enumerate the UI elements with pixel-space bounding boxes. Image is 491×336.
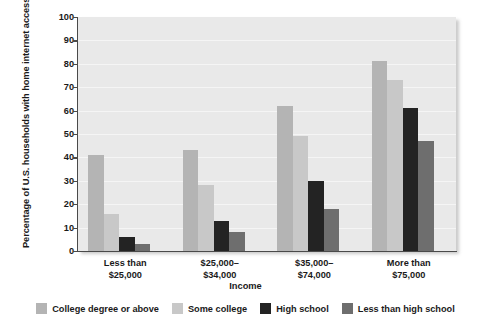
y-tick-label: 20 <box>44 199 74 209</box>
y-tick-label: 80 <box>44 59 74 69</box>
x-tick-label: More than$75,000 <box>359 258 459 281</box>
bar-group <box>277 17 339 251</box>
bar <box>387 80 403 251</box>
y-tick-label: 0 <box>44 246 74 256</box>
y-tick-mark <box>73 87 77 88</box>
legend-label: Less than high school <box>358 304 455 314</box>
y-tick-label: 90 <box>44 35 74 45</box>
legend-label: Some college <box>188 304 247 314</box>
y-tick-mark <box>73 251 77 252</box>
bar <box>372 61 388 251</box>
bar <box>418 141 434 251</box>
bar <box>88 155 104 251</box>
x-tick-label: $25,000–$34,000 <box>170 258 270 281</box>
bar <box>293 136 309 251</box>
y-tick-label: 10 <box>44 223 74 233</box>
bar-group <box>183 17 245 251</box>
bar-group <box>88 17 150 251</box>
bar-chart-figure: Percentage of U.S. households with home … <box>0 0 491 336</box>
y-tick-mark <box>73 64 77 65</box>
y-axis-line <box>77 17 78 252</box>
x-tick-label: $35,000–$74,000 <box>264 258 364 281</box>
bar <box>119 237 135 251</box>
legend-swatch <box>342 303 353 314</box>
y-tick-mark <box>73 40 77 41</box>
y-axis-title-line2: with home internet access <box>21 0 31 112</box>
legend-swatch <box>36 303 47 314</box>
y-tick-label: 30 <box>44 176 74 186</box>
y-tick-mark <box>73 157 77 158</box>
legend-swatch <box>260 303 271 314</box>
y-tick-mark <box>73 111 77 112</box>
y-tick-label: 70 <box>44 82 74 92</box>
legend-label: College degree or above <box>52 304 159 314</box>
plot-area <box>78 17 456 251</box>
bar <box>104 214 120 251</box>
x-axis-title: Income <box>0 281 491 291</box>
bar <box>183 150 199 251</box>
bar <box>324 209 340 251</box>
bar <box>403 108 419 251</box>
y-tick-label: 100 <box>44 12 74 22</box>
y-tick-label: 40 <box>44 152 74 162</box>
y-tick-mark <box>73 17 77 18</box>
bar <box>277 106 293 251</box>
legend-item[interactable]: Less than high school <box>342 303 455 314</box>
bar <box>135 244 151 251</box>
x-tick-label: Less than$25,000 <box>75 258 175 281</box>
y-tick-label: 50 <box>44 129 74 139</box>
y-axis-title-line1: Percentage of U.S. households <box>21 114 31 248</box>
legend-item[interactable]: Some college <box>172 303 247 314</box>
bar <box>198 185 214 251</box>
bar-group <box>372 17 434 251</box>
y-axis-title: Percentage of U.S. households with home … <box>14 18 40 250</box>
legend-label: High school <box>276 304 329 314</box>
bar <box>229 232 245 251</box>
bar <box>214 221 230 251</box>
y-tick-mark <box>73 134 77 135</box>
x-axis-line <box>77 251 457 252</box>
bar <box>308 181 324 251</box>
y-tick-label: 60 <box>44 106 74 116</box>
y-tick-mark <box>73 181 77 182</box>
legend-swatch <box>172 303 183 314</box>
legend: College degree or aboveSome collegeHigh … <box>0 303 491 314</box>
legend-item[interactable]: High school <box>260 303 329 314</box>
y-tick-mark <box>73 228 77 229</box>
plot-inner <box>78 17 456 251</box>
legend-item[interactable]: College degree or above <box>36 303 159 314</box>
y-tick-mark <box>73 204 77 205</box>
